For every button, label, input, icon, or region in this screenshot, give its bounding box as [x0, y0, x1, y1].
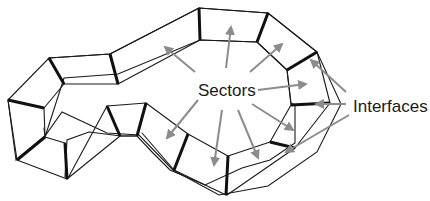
- sectors-label: Sectors: [198, 81, 256, 100]
- interfaces-label: Interfaces: [353, 97, 428, 116]
- sectors-interfaces-diagram: Sectors Interfaces: [0, 0, 430, 201]
- inner-boundary: [44, 40, 295, 185]
